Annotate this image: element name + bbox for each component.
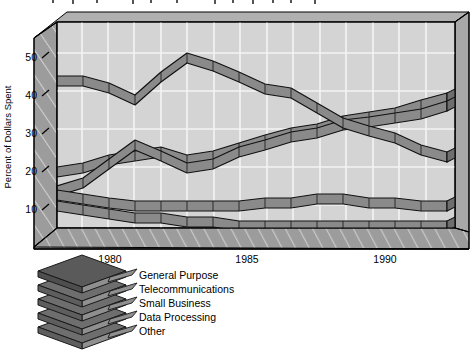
x-tick-label-1985: 1985 — [235, 253, 259, 265]
ribbon-chart-canvas: 10 20 30 40 50 Percent of Dollars Spent … — [0, 0, 472, 363]
y-tick-label-40: 40 — [25, 89, 37, 101]
legend-label-data-processing: Data Processing — [139, 311, 216, 323]
chart-floor — [34, 228, 469, 249]
y-tick-label-10: 10 — [25, 203, 37, 215]
legend-label-other: Other — [139, 325, 166, 337]
x-tick-label-1990: 1990 — [373, 253, 397, 265]
chart-figure: 10 20 30 40 50 Percent of Dollars Spent … — [0, 0, 472, 363]
y-tick-label-50: 50 — [25, 51, 37, 63]
legend-label-general-purpose: General Purpose — [139, 269, 219, 281]
y-tick-label-30: 30 — [25, 127, 37, 139]
y-tick-label-20: 20 — [25, 165, 37, 177]
chart-right-wall — [455, 12, 469, 232]
legend-label-telecommunications: Telecommunications — [139, 283, 234, 295]
chart-legend: General Purpose Telecommunications Small… — [38, 255, 234, 349]
legend-label-small-business: Small Business — [139, 297, 211, 309]
cropped-title-remnant — [52, 0, 316, 4]
y-axis-title: Percent of Dollars Spent — [2, 85, 13, 188]
